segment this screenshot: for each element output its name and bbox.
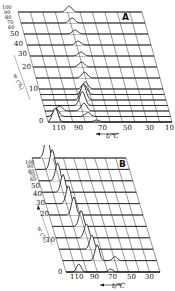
x-tick-30: 30 [145,274,154,281]
x-tick-70: 70 [98,125,107,132]
chart-panel-b: B 100 90 80 70 60 50 40 30 20 10 0 w (%)… [0,145,175,291]
z-tick-50: 50 [10,31,19,38]
z-tick-20: 20 [22,64,31,71]
panel-label-b: B [119,159,126,169]
panel-label-a: A [122,12,129,22]
x-axis-label: t/℃ [112,282,125,290]
z-tick-50: 50 [31,183,40,190]
x-tick-50: 50 [123,125,132,132]
x-tick-50: 50 [127,274,136,281]
x-tick-110: 110 [52,125,65,132]
z-tick-0: 0 [58,269,62,276]
x-tick-90: 90 [90,274,99,281]
z-tick-40: 40 [33,191,42,198]
z-tick-0: 0 [39,118,43,125]
x-axis-label: t/℃ [106,132,119,140]
x-tick-110: 110 [70,274,83,281]
x-tick-10: 10 [165,125,174,132]
z-tick-30: 30 [36,200,45,207]
z-tick-10: 10 [29,86,38,93]
x-tick-70: 70 [108,274,117,281]
chart-panel-a: A 100 90 80 70 60 50 40 30 20 10 0 w (%)… [0,0,175,145]
x-tick-90: 90 [74,125,83,132]
x-tick-30: 30 [145,125,154,132]
z-tick-40: 40 [14,41,23,48]
z-tick-30: 30 [18,51,27,58]
z-tick-20: 20 [40,211,49,218]
